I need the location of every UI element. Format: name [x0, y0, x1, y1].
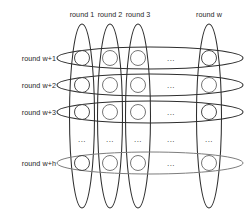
node-r2-cw[interactable] — [202, 78, 217, 93]
ellipsis-col-3: ... — [134, 135, 142, 144]
column-label-round-w: round w — [196, 10, 223, 19]
vertical-ellipse-round-3[interactable] — [126, 24, 151, 208]
node-rh-c1[interactable] — [75, 156, 90, 171]
node-r1-c3[interactable] — [131, 51, 146, 66]
ellipsis-row-w-1: ... — [167, 54, 175, 63]
horizontal-ellipse-round-w-1[interactable] — [57, 47, 243, 69]
node-r2-c1[interactable] — [75, 78, 90, 93]
row-label-round-w-1: round w+1 — [22, 54, 56, 63]
node-r1-cw[interactable] — [202, 51, 217, 66]
ellipsis-row-w-2: ... — [167, 81, 175, 90]
round-lattice-diagram: round 1 round 2 round 3 round w round w+… — [0, 0, 252, 219]
ellipsis-row-w-3: ... — [167, 108, 175, 117]
node-r1-c1[interactable] — [75, 51, 90, 66]
horizontal-ellipse-round-w-h[interactable] — [57, 152, 243, 174]
node-r3-c3[interactable] — [131, 105, 146, 120]
vertical-ellipse-round-2[interactable] — [98, 24, 123, 208]
node-rh-cw[interactable] — [202, 156, 217, 171]
vertical-ellipse-group — [70, 24, 222, 208]
row-label-round-w-3: round w+3 — [22, 108, 56, 117]
node-rh-c3[interactable] — [131, 156, 146, 171]
ellipsis-center-gap: ... — [167, 135, 175, 144]
row-label-group: round w+1 round w+2 round w+3 round w+h — [22, 54, 56, 168]
row-label-round-w-2: round w+2 — [22, 81, 56, 90]
ellipsis-row-w-h: ... — [167, 159, 175, 168]
column-label-group: round 1 round 2 round 3 round w — [70, 10, 223, 19]
node-r2-c2[interactable] — [103, 78, 118, 93]
column-label-round-1: round 1 — [70, 10, 95, 19]
node-r2-c3[interactable] — [131, 78, 146, 93]
column-label-round-3: round 3 — [126, 10, 151, 19]
row-label-round-w-h: round w+h — [22, 159, 56, 168]
ellipsis-col-w: ... — [205, 135, 213, 144]
ellipsis-col-1: ... — [78, 135, 86, 144]
node-r3-cw[interactable] — [202, 105, 217, 120]
vertical-ellipse-round-w[interactable] — [197, 24, 222, 208]
ellipsis-col-2: ... — [106, 135, 114, 144]
node-r1-c2[interactable] — [103, 51, 118, 66]
node-rh-c2[interactable] — [103, 156, 118, 171]
column-gap-ellipsis-group: ... ... ... ... — [167, 54, 175, 168]
node-r3-c2[interactable] — [103, 105, 118, 120]
column-label-round-2: round 2 — [98, 10, 123, 19]
node-r3-c1[interactable] — [75, 105, 90, 120]
diagram-canvas: round 1 round 2 round 3 round w round w+… — [0, 0, 252, 219]
